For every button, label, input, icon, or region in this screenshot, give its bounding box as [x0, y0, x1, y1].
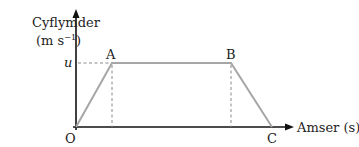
graph-line: [76, 63, 272, 127]
point-a-label: A: [105, 47, 116, 62]
y-axis-label-line2: (m s−1): [36, 33, 81, 48]
velocity-time-graph: Cyflymder (m s−1) u A B C O Amser (s): [0, 0, 359, 147]
origin-label: O: [65, 131, 76, 146]
x-axis-label: Amser (s): [296, 120, 359, 135]
point-b-label: B: [226, 47, 236, 62]
u-label: u: [64, 55, 72, 70]
x-axis-arrow-icon: [285, 124, 294, 131]
point-c-label: C: [267, 131, 277, 146]
y-axis-label-line1: Cyflymder: [32, 15, 101, 30]
